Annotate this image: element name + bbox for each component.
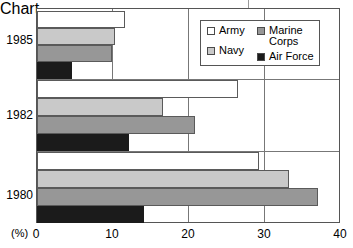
legend-swatch-marine-corps-icon	[257, 27, 265, 35]
bar-1985-navy	[37, 28, 115, 45]
legend-item-air-force: Air Force	[257, 51, 314, 62]
bar-1985-marine	[37, 45, 112, 62]
xtick-30: 30	[249, 227, 279, 241]
category-label-1985: 1985	[0, 33, 33, 47]
xtick-40: 40	[325, 227, 353, 241]
legend-column-right: Marine Corps Air Force	[257, 25, 314, 66]
horizontal-bar-chart: 1985 1982 1980 (%) 0 10 20 30 40 Army Na…	[0, 0, 353, 248]
bar-1982-air	[37, 134, 129, 151]
legend-label-air-force: Air Force	[269, 51, 314, 62]
xtick-10: 10	[97, 227, 127, 241]
bar-1980-marine	[37, 188, 318, 206]
bar-1980-navy	[37, 170, 289, 188]
legend-label-marine-corps: Marine Corps	[269, 25, 303, 47]
bar-1980-air	[37, 206, 144, 223]
legend-column-left: Army Navy	[207, 25, 245, 60]
bar-1985-air	[37, 62, 72, 79]
legend-swatch-air-force-icon	[257, 53, 265, 61]
legend-label-army: Army	[219, 25, 245, 36]
xtick-20: 20	[173, 227, 203, 241]
xtick-0: 0	[21, 227, 51, 241]
legend: Army Navy Marine Corps Air Force	[200, 20, 320, 66]
bar-1982-marine	[37, 116, 195, 134]
category-label-1980: 1980	[0, 188, 33, 202]
legend-label-navy: Navy	[219, 45, 244, 56]
bar-1985-army	[37, 11, 125, 28]
legend-swatch-navy-icon	[207, 47, 215, 55]
legend-item-army: Army	[207, 25, 245, 36]
legend-item-navy: Navy	[207, 45, 245, 56]
bar-1982-navy	[37, 98, 163, 116]
category-label-1982: 1982	[0, 108, 33, 122]
plot-top-tick	[248, 0, 249, 8]
legend-item-marine-corps: Marine Corps	[257, 25, 314, 47]
bar-1982-army	[37, 80, 238, 98]
legend-swatch-army-icon	[207, 27, 215, 35]
bar-1980-army	[37, 152, 259, 170]
